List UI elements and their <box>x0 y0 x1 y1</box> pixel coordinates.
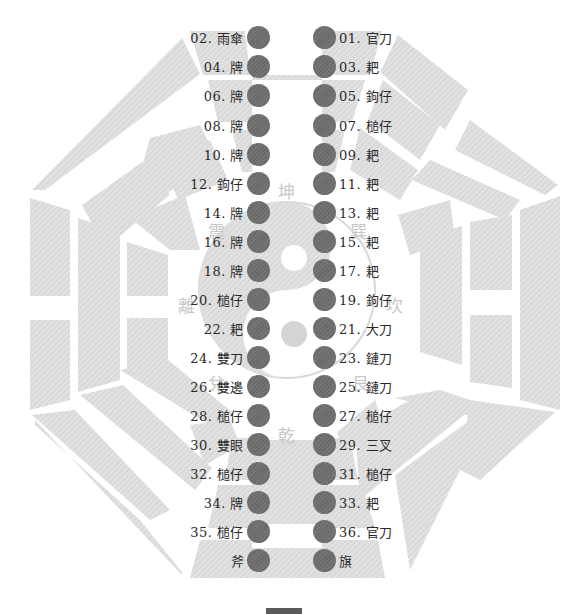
position-label: 10. 牌 <box>204 145 244 164</box>
position-dot <box>313 201 336 224</box>
position-label: 24. 雙刀 <box>190 348 244 367</box>
left-position-04: 04. 牌 <box>120 54 270 78</box>
right-position-27: 27. 槌仔 <box>313 403 463 427</box>
position-label: 旗 <box>339 551 353 570</box>
position-dot <box>313 462 336 485</box>
trigram-bottom-label: 乾 <box>278 422 295 447</box>
left-position-32: 32. 槌仔 <box>120 461 270 485</box>
position-label: 02. 雨傘 <box>190 28 244 47</box>
right-position-11: 11. 耙 <box>313 171 463 195</box>
right-position-33: 33. 耙 <box>313 490 463 514</box>
panel-right-outer <box>520 196 560 410</box>
left-position-02: 02. 雨傘 <box>120 25 270 49</box>
position-dot <box>313 433 336 456</box>
position-label: 31. 槌仔 <box>339 464 393 483</box>
bagua-octagon-background <box>0 0 568 614</box>
left-position-26: 26. 雙邊 <box>120 374 270 398</box>
position-dot <box>247 462 270 485</box>
position-dot <box>313 26 336 49</box>
right-position-flag: 旗 <box>313 548 463 572</box>
position-label: 斧 <box>231 551 245 570</box>
position-dot <box>247 288 270 311</box>
position-dot <box>247 346 270 369</box>
right-position-29: 29. 三叉 <box>313 432 463 456</box>
position-label: 17. 耙 <box>339 261 379 280</box>
position-dot <box>313 114 336 137</box>
bagua-formation-diagram: 坤 乾 離 坎 震 巽 兌 艮 02. 雨傘 04. 牌 06. 牌 08. 牌… <box>0 0 568 614</box>
position-label: 35. 槌仔 <box>190 522 244 541</box>
right-position-23: 23. 鏈刀 <box>313 345 463 369</box>
position-label: 27. 槌仔 <box>339 406 393 425</box>
position-label: 23. 鏈刀 <box>339 348 393 367</box>
position-label: 29. 三叉 <box>339 435 393 454</box>
trigram-top-label: 坤 <box>278 178 295 203</box>
left-position-10: 10. 牌 <box>120 142 270 166</box>
position-dot <box>247 55 270 78</box>
position-dot <box>313 143 336 166</box>
position-dot <box>247 404 270 427</box>
position-label: 01. 官刀 <box>339 28 393 47</box>
right-position-17: 17. 耙 <box>313 258 463 282</box>
position-dot <box>313 520 336 543</box>
left-position-35: 35. 槌仔 <box>120 519 270 543</box>
position-dot <box>247 259 270 282</box>
right-position-21: 21. 大刀 <box>313 316 463 340</box>
position-label: 33. 耙 <box>339 493 379 512</box>
right-position-36: 36. 官刀 <box>313 519 463 543</box>
left-position-16: 16. 牌 <box>120 229 270 253</box>
position-dot <box>313 375 336 398</box>
left-position-12: 12. 鉤仔 <box>120 171 270 195</box>
position-label: 34. 牌 <box>204 493 244 512</box>
position-dot <box>313 230 336 253</box>
position-dot <box>247 143 270 166</box>
right-position-19: 19. 鉤仔 <box>313 287 463 311</box>
position-dot <box>313 346 336 369</box>
left-position-18: 18. 牌 <box>120 258 270 282</box>
left-position-34: 34. 牌 <box>120 490 270 514</box>
right-position-25: 25. 鏈刀 <box>313 374 463 398</box>
position-label: 30. 雙眼 <box>190 435 244 454</box>
position-label: 14. 牌 <box>204 203 244 222</box>
left-position-08: 08. 牌 <box>120 113 270 137</box>
position-label: 13. 耙 <box>339 203 379 222</box>
left-position-22: 22. 耙 <box>120 316 270 340</box>
right-position-07: 07. 槌仔 <box>313 113 463 137</box>
panel-right-mid-bottom <box>470 315 512 388</box>
right-position-09: 09. 耙 <box>313 142 463 166</box>
position-label: 03. 耙 <box>339 57 379 76</box>
position-dot <box>313 317 336 340</box>
position-dot <box>313 55 336 78</box>
position-dot <box>247 26 270 49</box>
position-dot <box>313 259 336 282</box>
position-label: 19. 鉤仔 <box>339 290 393 309</box>
position-label: 20. 槌仔 <box>190 290 244 309</box>
right-position-05: 05. 鉤仔 <box>313 83 463 107</box>
position-dot <box>313 404 336 427</box>
position-label: 28. 槌仔 <box>190 406 244 425</box>
left-position-06: 06. 牌 <box>120 83 270 107</box>
position-label: 12. 鉤仔 <box>190 174 244 193</box>
position-label: 07. 槌仔 <box>339 116 393 135</box>
position-dot <box>247 375 270 398</box>
position-label: 18. 牌 <box>204 261 244 280</box>
left-position-24: 24. 雙刀 <box>120 345 270 369</box>
bottom-marker-bar <box>266 608 302 614</box>
right-position-01: 01. 官刀 <box>313 25 463 49</box>
position-label: 06. 牌 <box>204 86 244 105</box>
left-position-axe: 斧 <box>120 548 270 572</box>
position-label: 25. 鏈刀 <box>339 377 393 396</box>
position-label: 09. 耙 <box>339 145 379 164</box>
position-dot <box>247 491 270 514</box>
right-position-13: 13. 耙 <box>313 200 463 224</box>
panel-right-mid-top <box>470 215 512 290</box>
position-label: 05. 鉤仔 <box>339 86 393 105</box>
position-dot <box>313 549 336 572</box>
position-dot <box>247 84 270 107</box>
position-label: 08. 牌 <box>204 116 244 135</box>
position-dot <box>313 288 336 311</box>
position-dot <box>247 230 270 253</box>
position-dot <box>313 172 336 195</box>
right-position-15: 15. 耙 <box>313 229 463 253</box>
position-label: 15. 耙 <box>339 232 379 251</box>
position-dot <box>247 317 270 340</box>
